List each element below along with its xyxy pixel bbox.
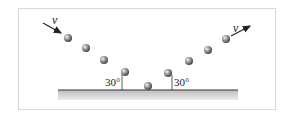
surface bbox=[58, 90, 238, 100]
ball bbox=[82, 44, 90, 52]
reflection-angle-label: 30° bbox=[174, 76, 189, 88]
ball bbox=[100, 56, 108, 64]
incoming-velocity-label: v bbox=[52, 13, 57, 28]
ball bbox=[204, 46, 212, 54]
ball bbox=[121, 68, 129, 76]
ball-trajectory bbox=[64, 34, 230, 90]
outgoing-velocity-label: v bbox=[233, 21, 238, 36]
ball bbox=[164, 69, 172, 77]
ball bbox=[64, 34, 72, 42]
bounce-diagram bbox=[0, 0, 289, 120]
ball bbox=[222, 35, 230, 43]
ball bbox=[144, 82, 152, 90]
ball bbox=[185, 57, 193, 65]
incidence-angle-label: 30° bbox=[105, 76, 120, 88]
